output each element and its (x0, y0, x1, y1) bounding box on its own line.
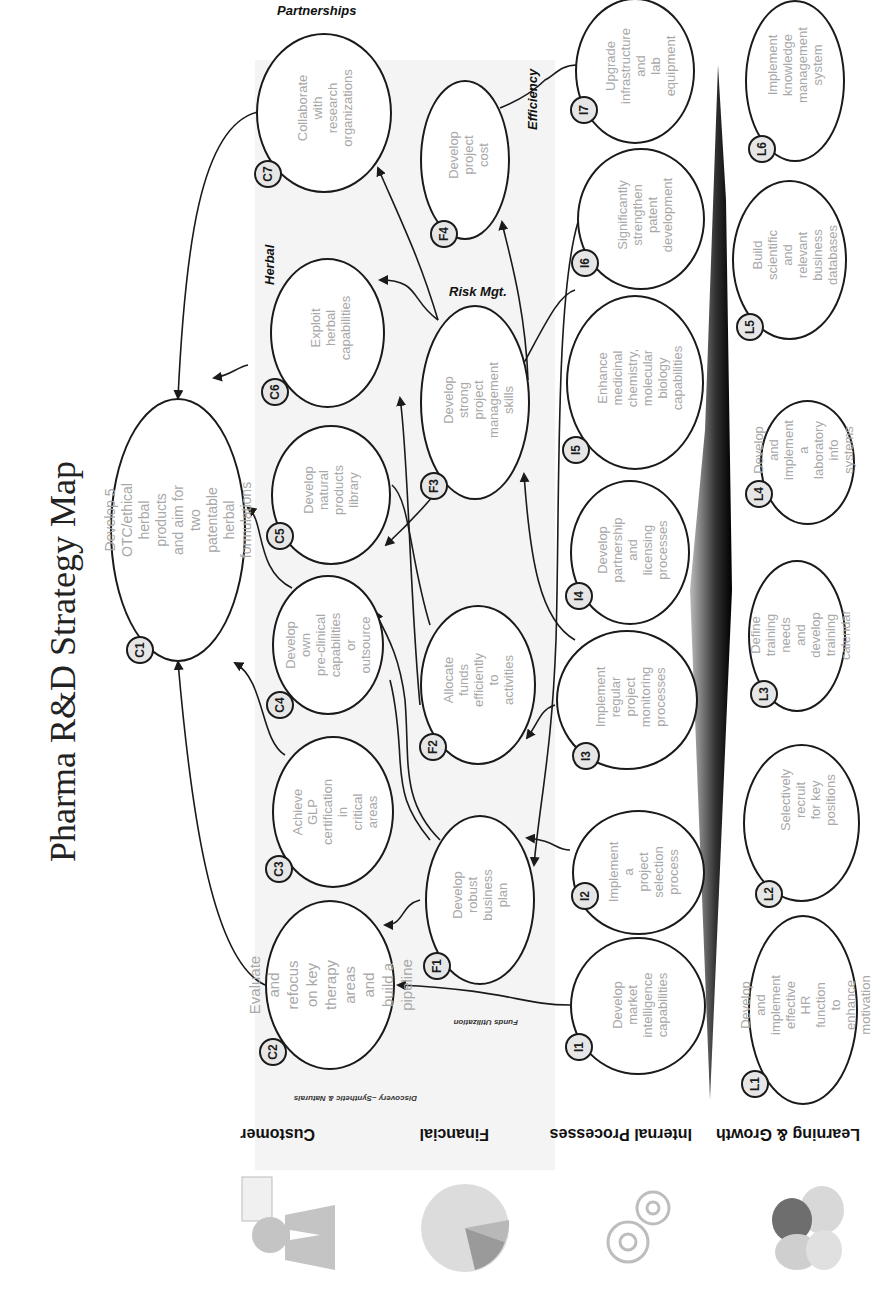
objective-f3-text: Develop strong project management skills (441, 362, 516, 438)
objective-c2-text: Evaluate and refocus on key therapy area… (245, 956, 416, 1014)
objective-f4-code: F4 (437, 227, 451, 241)
theme-partnerships: Partnerships (277, 3, 356, 18)
strategy-map: Pharma R&D Strategy Map Partnerships Eff… (0, 0, 888, 1292)
objective-c2-code: C2 (266, 1044, 280, 1059)
objective-f3-code: F3 (427, 479, 441, 493)
objective-c5-code: C5 (273, 528, 287, 543)
objective-f1-text: Develop robust business plan (450, 869, 510, 920)
objective-c1-text: Develop 5 OTC/ethical herbal products an… (102, 482, 255, 558)
objective-i3-text: Implement regular project monitoring pro… (593, 667, 668, 728)
perspective-internal-label: Internal Processes (550, 1125, 692, 1143)
objective-l2-text: Selectively recruit for key positions (778, 769, 838, 831)
objective-i6-code: I6 (578, 258, 592, 268)
pie-chart-icon (415, 1180, 515, 1275)
objective-l1-code: L1 (748, 1077, 762, 1091)
objective-c6-text: Exploit herbal capabilities (308, 296, 353, 360)
theme-risk-management: Risk Mgt. (449, 284, 507, 299)
perspective-customer-label: Customer (240, 1125, 315, 1143)
objective-i1-code: I1 (572, 1042, 586, 1052)
objective-l5-text: Build scientific and relevant business d… (750, 225, 840, 285)
customer-person-icon (240, 1175, 340, 1275)
objective-l3-code: L3 (757, 687, 771, 701)
objective-i2-code: I2 (578, 891, 592, 901)
objective-l1-text: Develop and implement effective HR funct… (738, 975, 873, 1035)
objective-c4-text: Develop own pre-clinical capabilities or… (283, 613, 373, 677)
gears-icon (598, 1180, 688, 1275)
objective-f1-code: F1 (430, 959, 444, 973)
objective-l4-code: L4 (752, 487, 766, 501)
perspective-financial-label: Financial (420, 1125, 489, 1143)
objective-c6-code: C6 (268, 384, 282, 399)
objective-l6-code: L6 (755, 142, 769, 156)
objective-i7-text: Upgrade infrastructure and lab equipment (603, 28, 678, 104)
page-title: Pharma R&D Strategy Map (42, 461, 84, 862)
theme-efficiency: Efficiency (525, 69, 540, 130)
objective-i4-text: Develop partnership and licensing proces… (595, 517, 670, 582)
objective-c3-code: C3 (272, 861, 286, 876)
objective-i3-code: I3 (579, 751, 593, 761)
objective-l6-text: Implement knowledge management system (765, 27, 825, 103)
objective-f2-text: Allocate funds efficiently to activities (441, 653, 516, 707)
objective-c3-text: Achieve GLP certification in critical ar… (290, 779, 380, 845)
objective-i6-text: Significantly strengthen patent developm… (615, 178, 675, 252)
objective-f4-text: Develop project cost (446, 131, 491, 179)
objective-l4-text: Develop and implement a laboratory info … (751, 420, 856, 480)
objective-l3-text: Define training needs and develop traini… (748, 610, 853, 660)
objective-i2-text: Implement a project selection process (606, 842, 681, 903)
objective-i1-text: Develop market intelligence capabilities (610, 972, 670, 1037)
objective-c5-text: Develop natural products library (301, 465, 361, 515)
objective-c4-code: C4 (273, 697, 287, 712)
objective-i5-code: I5 (569, 445, 583, 455)
objective-c7-code: C7 (261, 166, 275, 181)
objective-i5-text: Enhance medicinal chemistry, molecular b… (595, 346, 685, 410)
objective-f2-code: F2 (426, 740, 440, 754)
objective-l2-code: L2 (762, 887, 776, 901)
objective-c1-code: C1 (133, 642, 147, 657)
objective-l5-code: L5 (743, 320, 757, 334)
eggs-icon (762, 1180, 852, 1275)
theme-funds-utilization: Funds Utilization (454, 1018, 518, 1027)
theme-discovery: Discovery –Synthetic & Naturals (294, 1094, 417, 1103)
objective-i4-code: I4 (572, 591, 586, 601)
objective-c7-text: Collaborate with research organizations (295, 69, 355, 146)
objective-i7-code: I7 (577, 105, 591, 115)
perspective-learning-label: Learning & Growth (716, 1125, 860, 1143)
theme-herbal: Herbal (262, 245, 277, 285)
